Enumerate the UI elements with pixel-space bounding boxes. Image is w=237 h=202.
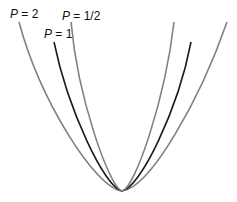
label-p-1: P = 1 bbox=[44, 27, 72, 41]
label-var: P bbox=[10, 7, 18, 21]
label-p-2: P = 2 bbox=[10, 7, 38, 21]
label-p-half: P = 1/2 bbox=[62, 9, 100, 23]
curve-p-half bbox=[71, 22, 174, 191]
parabola-curves bbox=[0, 0, 237, 202]
curve-p-1 bbox=[54, 42, 191, 191]
label-text: = 1/2 bbox=[70, 9, 100, 23]
label-var: P bbox=[44, 27, 52, 41]
curve-p-2 bbox=[19, 22, 227, 191]
label-text: = 1 bbox=[52, 27, 72, 41]
label-var: P bbox=[62, 9, 70, 23]
label-text: = 2 bbox=[18, 7, 38, 21]
